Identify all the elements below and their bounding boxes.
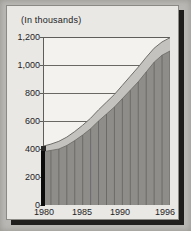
x-tick-label-1990: 1990 bbox=[110, 207, 130, 217]
area-series-svg bbox=[43, 37, 170, 205]
x-tick-label-1996: 1996 bbox=[155, 207, 175, 217]
chart-figure: (In thousands) 1,200 1,000 800 600 400 2… bbox=[0, 0, 191, 231]
card-shadow-right bbox=[179, 10, 184, 222]
x-tick-label-1980: 1980 bbox=[34, 207, 54, 217]
depth-face-left bbox=[41, 149, 45, 206]
y-tick-label-400: 400 bbox=[25, 144, 40, 154]
y-tick-label-200: 200 bbox=[25, 172, 40, 182]
y-tick-label-600: 600 bbox=[25, 116, 40, 126]
y-tick-label-1200: 1,200 bbox=[17, 32, 40, 42]
x-tick-label-1985: 1985 bbox=[72, 207, 92, 217]
y-tick-label-1000: 1,000 bbox=[17, 60, 40, 70]
plot-area bbox=[43, 37, 170, 205]
y-tick-label-800: 800 bbox=[25, 88, 40, 98]
depth-face-top bbox=[41, 146, 46, 151]
y-axis-labels: 1,200 1,000 800 600 400 200 0 bbox=[0, 0, 40, 231]
